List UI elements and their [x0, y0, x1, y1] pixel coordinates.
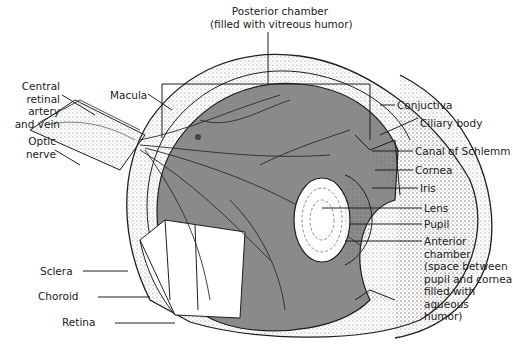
label-central-retinal: Central retinal artery and vein [0, 80, 60, 130]
central-retinal-line2: retinal [0, 93, 60, 106]
central-retinal-line3: artery [0, 105, 60, 118]
lens [294, 178, 350, 262]
label-choroid: Choroid [38, 290, 79, 303]
central-retinal-line1: Central [0, 80, 60, 93]
anterior-line1: Anterior [424, 235, 512, 248]
anterior-line3: (space between [424, 260, 512, 273]
label-iris: Iris [420, 182, 436, 195]
label-optic-nerve: Optic nerve [0, 135, 56, 160]
label-macula: Macula [110, 89, 147, 102]
label-retina: Retina [62, 316, 95, 329]
label-sclera: Sclera [40, 265, 73, 278]
optic-nerve-line2: nerve [0, 148, 56, 161]
label-canal-of-schlemm: Canal of Schlemm [415, 145, 511, 158]
anterior-line2: chamber [424, 248, 512, 261]
anterior-line7: humor) [424, 310, 512, 323]
label-pupil: Pupil [424, 218, 449, 231]
anterior-line5: filled with [424, 285, 512, 298]
label-lens: Lens [424, 202, 448, 215]
anterior-line6: aqueous [424, 298, 512, 311]
anterior-line4: pupil and cornea [424, 273, 512, 286]
macula-spot [195, 134, 201, 140]
posterior-chamber-line2: (filled with vitreous humor) [210, 18, 350, 31]
posterior-chamber-line1: Posterior chamber [210, 5, 350, 18]
label-conjuctiva: Conjuctiva [397, 99, 452, 112]
central-retinal-line4: and vein [0, 118, 60, 131]
label-ciliary-body: Ciliary body [420, 117, 482, 130]
label-cornea: Cornea [415, 164, 452, 177]
label-anterior-chamber: Anterior chamber (space between pupil an… [424, 235, 512, 323]
label-posterior-chamber: Posterior chamber (filled with vitreous … [210, 5, 350, 30]
optic-nerve-line1: Optic [0, 135, 56, 148]
